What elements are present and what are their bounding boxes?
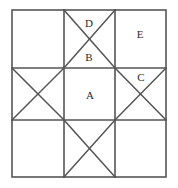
region-label-a: A (86, 90, 94, 101)
region-label-c: C (137, 72, 144, 83)
region-label-d: D (85, 18, 93, 29)
geometry-figure: D B E C A (0, 0, 178, 188)
region-label-e: E (137, 29, 144, 40)
region-label-b: B (85, 52, 92, 63)
